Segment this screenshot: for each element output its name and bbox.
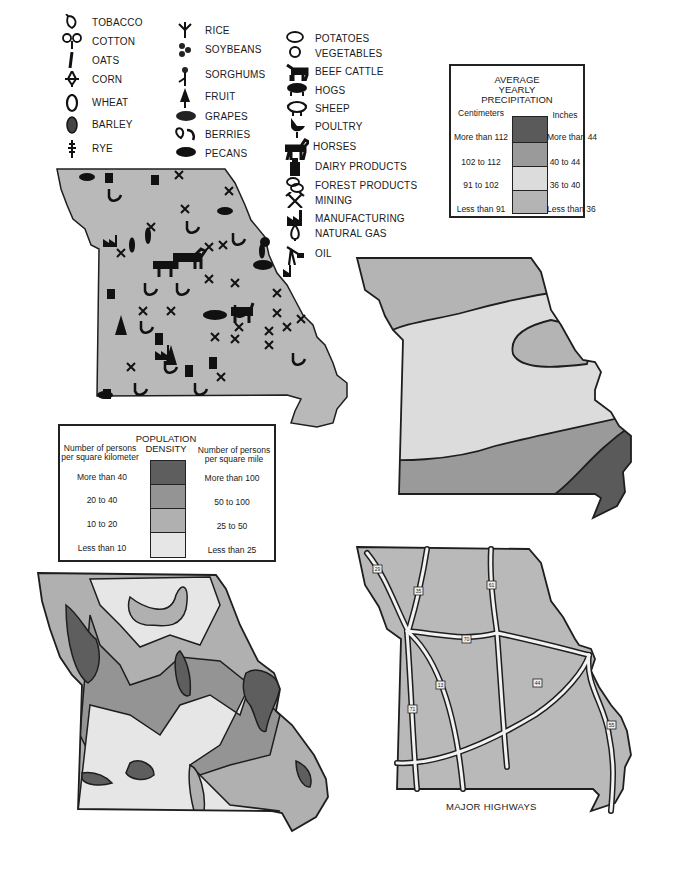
legend-item-beef-cattle: BEEF CATTLE — [285, 63, 384, 79]
fruit-tree-icon — [175, 88, 195, 104]
wheat-icon — [62, 94, 82, 110]
major-highways-map: 29 35 61 70 13 71 44 55 — [355, 545, 645, 825]
per-mile-header: Number of persons per square mile — [194, 446, 274, 464]
legend-item-soybeans: SOYBEANS — [175, 41, 262, 57]
precipitation-legend: AVERAGE YEARLY PRECIPITATION Centimeters… — [449, 64, 585, 218]
barley-icon — [62, 116, 82, 132]
precip-swatch-3 — [512, 166, 548, 192]
inches-header: Inches — [545, 110, 585, 120]
legend-item-sheep: SHEEP — [285, 100, 350, 116]
legend-item-cotton: COTTON — [62, 33, 135, 49]
legend-item-wheat: WHEAT — [62, 94, 128, 110]
shield-13: 13 — [436, 681, 445, 689]
precip-swatch-2 — [512, 142, 548, 168]
precip-swatch-4 — [512, 190, 548, 214]
centimeters-header: Centimeters — [455, 108, 507, 118]
population-density-map — [30, 565, 350, 835]
shield-61: 61 — [487, 581, 496, 589]
legend-item-grapes: GRAPES — [175, 108, 248, 124]
legend-item-oats: OATS — [62, 52, 119, 68]
legend-item-potatoes: POTATOES — [285, 30, 369, 46]
oats-icon — [62, 52, 82, 68]
legend-item-vegetables: VEGETABLES — [285, 45, 382, 61]
shield-55: 55 — [607, 721, 616, 729]
missouri-outline — [57, 169, 347, 427]
cattle-icon — [285, 63, 305, 79]
legend-item-pecans: PECANS — [175, 145, 247, 161]
tobacco-leaf-icon — [62, 14, 82, 30]
grapes-icon — [175, 108, 195, 124]
corn-icon — [62, 71, 82, 87]
legend-item-corn: CORN — [62, 71, 122, 87]
per-km-header: Number of persons per square kilometer — [60, 444, 140, 462]
svg-text:70: 70 — [464, 636, 470, 642]
precipitation-legend-title: AVERAGE YEARLY PRECIPITATION — [451, 75, 583, 105]
svg-text:71: 71 — [410, 706, 416, 712]
density-swatch-4 — [150, 532, 186, 558]
soybeans-icon — [175, 41, 195, 57]
hog-icon — [285, 82, 305, 98]
shield-70: 70 — [462, 635, 471, 643]
precip-swatch-1 — [512, 116, 548, 144]
svg-text:44: 44 — [535, 680, 541, 686]
shield-35: 35 — [414, 587, 423, 595]
agricultural-products-map — [55, 165, 355, 430]
pecan-icon — [175, 145, 195, 161]
potato-icon — [285, 30, 305, 46]
svg-text:61: 61 — [489, 582, 495, 588]
sorghum-icon — [175, 66, 195, 82]
legend-item-tobacco: TOBACCO — [62, 14, 143, 30]
berries-icon — [175, 126, 195, 142]
legend-item-hogs: HOGS — [285, 82, 345, 98]
legend-item-sorghums: SORGHUMS — [175, 66, 266, 82]
density-swatch-3 — [150, 508, 186, 534]
vegetable-icon — [285, 45, 305, 61]
legend-item-poultry: POULTRY — [285, 118, 363, 134]
rye-icon — [62, 140, 82, 156]
shield-71: 71 — [408, 705, 417, 713]
svg-text:55: 55 — [609, 722, 615, 728]
horse-icon — [283, 138, 303, 154]
density-swatch-2 — [150, 484, 186, 510]
legend-item-rye: RYE — [62, 140, 113, 156]
svg-text:35: 35 — [416, 588, 422, 594]
population-legend-title: POPULATION DENSITY — [130, 434, 202, 454]
poultry-icon — [285, 118, 305, 134]
legend-item-berries: BERRIES — [175, 126, 250, 142]
svg-text:13: 13 — [438, 682, 444, 688]
legend-item-fruit: FRUIT — [175, 88, 235, 104]
major-highways-caption: MAJOR HIGHWAYS — [446, 801, 537, 812]
rice-icon — [175, 22, 195, 38]
sheep-icon — [285, 100, 305, 116]
legend-item-rice: RICE — [175, 22, 230, 38]
density-swatch-1 — [150, 460, 186, 486]
cotton-boll-icon — [62, 33, 82, 49]
shield-44: 44 — [533, 679, 542, 687]
legend-item-barley: BARLEY — [62, 116, 133, 132]
population-density-legend: POPULATION DENSITY Number of persons per… — [58, 424, 276, 562]
svg-text:29: 29 — [375, 566, 381, 572]
legend-item-horses: HORSES — [283, 138, 356, 154]
shield-29: 29 — [373, 565, 382, 573]
precipitation-map — [355, 250, 655, 530]
